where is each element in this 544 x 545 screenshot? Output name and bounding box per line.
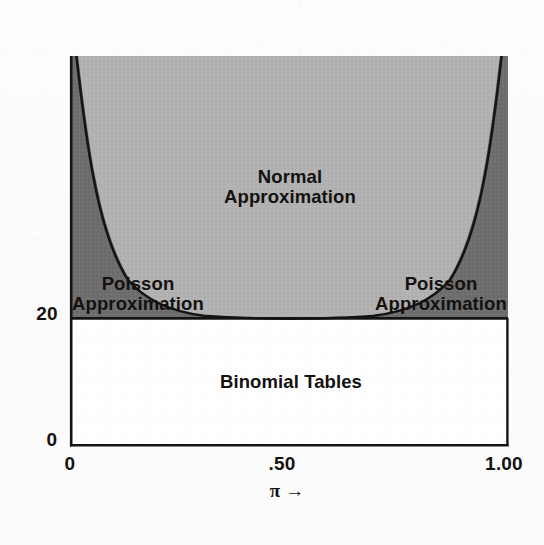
y-axis-tick-20: 20: [36, 304, 58, 325]
chart-figure: Normal Approximation Poisson Approximati…: [0, 0, 544, 545]
x-axis-title: π→: [270, 481, 304, 502]
right-arrow-icon: →: [280, 480, 304, 501]
region-label-poisson-right-line2: Approximation: [375, 294, 507, 314]
x-axis-tick-0: 0: [65, 454, 76, 475]
pi-symbol: π: [270, 480, 280, 501]
x-axis-tick-100: 1.00: [485, 454, 523, 475]
region-label-poisson-left-line2: Approximation: [72, 294, 204, 314]
region-label-normal-line1: Normal: [258, 166, 322, 187]
region-label-poisson-approximation-left: Poisson Approximation: [72, 274, 204, 314]
region-label-poisson-left-line1: Poisson: [102, 273, 175, 294]
region-label-poisson-right-line1: Poisson: [405, 273, 478, 294]
region-label-binomial-tables: Binomial Tables: [220, 372, 362, 392]
region-label-normal-approximation: Normal Approximation: [224, 167, 356, 207]
region-label-poisson-approximation-right: Poisson Approximation: [375, 274, 507, 314]
x-axis-tick-50: .50: [268, 454, 295, 475]
region-label-normal-line2: Approximation: [224, 187, 356, 207]
y-axis-tick-0: 0: [47, 430, 58, 451]
